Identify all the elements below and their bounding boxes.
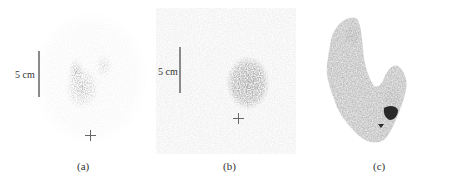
scale-label: 5 cm xyxy=(15,69,35,80)
scintigram-image-b xyxy=(150,0,300,160)
scale-bar xyxy=(179,47,181,93)
panel-b: 5 cm (b) xyxy=(150,0,300,186)
panel-c: (c) xyxy=(300,0,451,186)
panel-caption-b: (b) xyxy=(223,160,236,172)
scintigram-image-a xyxy=(0,0,150,160)
scale-label: 5 cm xyxy=(158,66,178,77)
cross-marker xyxy=(85,130,96,141)
cross-marker xyxy=(233,113,244,124)
scale-bar xyxy=(38,51,40,97)
panel-a: 5 cm (a) xyxy=(0,0,150,186)
panel-caption-a: (a) xyxy=(77,160,89,172)
thyroid-scintigram-image-c xyxy=(300,0,451,160)
panel-caption-c: (c) xyxy=(373,160,385,172)
